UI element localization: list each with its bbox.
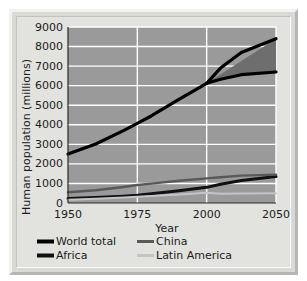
y-tick-label: 3000 — [35, 138, 63, 151]
x-axis-tick-labels: 1950197520002050 — [54, 208, 290, 221]
x-tick-label: 1975 — [123, 208, 151, 221]
y-axis-tick-labels: 0100020003000400050006000700080009000 — [35, 21, 63, 210]
x-tick-label: 2000 — [193, 208, 221, 221]
y-tick-label: 2000 — [35, 157, 63, 170]
x-axis-title: Year — [154, 222, 179, 235]
x-tick-label: 1950 — [54, 208, 82, 221]
x-tick-label: 2050 — [262, 208, 290, 221]
y-tick-label: 1000 — [35, 177, 63, 190]
population-line-chart: 0100020003000400050006000700080009000 19… — [17, 17, 290, 267]
figure-frame: 0100020003000400050006000700080009000 19… — [9, 9, 298, 275]
y-tick-label: 6000 — [35, 79, 63, 92]
y-tick-label: 8000 — [35, 40, 63, 53]
y-tick-label: 9000 — [35, 21, 63, 34]
y-tick-label: 5000 — [35, 99, 63, 112]
y-axis-title: Human population (millions) — [20, 59, 33, 215]
chart-legend: World totalChinaAfricaLatin America — [37, 235, 232, 262]
y-tick-label: 7000 — [35, 60, 63, 73]
figure: 0100020003000400050006000700080009000 19… — [0, 0, 307, 281]
y-tick-label: 4000 — [35, 118, 63, 131]
figure-inner-panel: 0100020003000400050006000700080009000 19… — [16, 16, 291, 268]
legend-label: Latin America — [156, 249, 232, 262]
legend-label: Africa — [56, 249, 87, 262]
legend-label: China — [156, 235, 187, 248]
legend-label: World total — [56, 235, 116, 248]
